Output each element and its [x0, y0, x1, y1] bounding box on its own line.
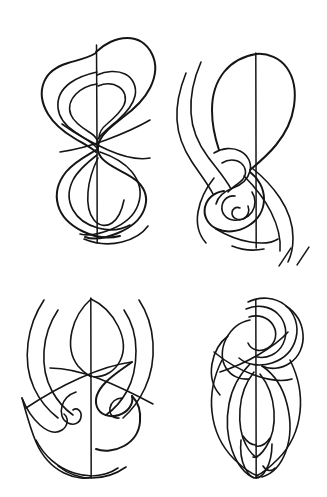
drawing-sheet: [0, 0, 327, 497]
drawing-canvas: [0, 0, 327, 497]
